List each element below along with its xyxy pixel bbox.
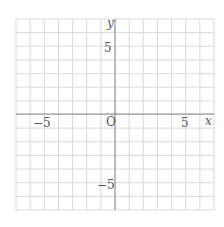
x-axis-label: x [205, 114, 212, 128]
x-tick-label-5: 5 [181, 116, 189, 130]
x-tick-label-neg5: −5 [33, 116, 51, 130]
y-tick-label-5: 5 [104, 41, 112, 55]
y-axis-label: y [106, 16, 114, 30]
y-tick-label-neg5: −5 [97, 178, 115, 192]
origin-label: O [106, 115, 116, 129]
coordinate-plane: y 5 O −5 5 x −5 [0, 0, 224, 227]
